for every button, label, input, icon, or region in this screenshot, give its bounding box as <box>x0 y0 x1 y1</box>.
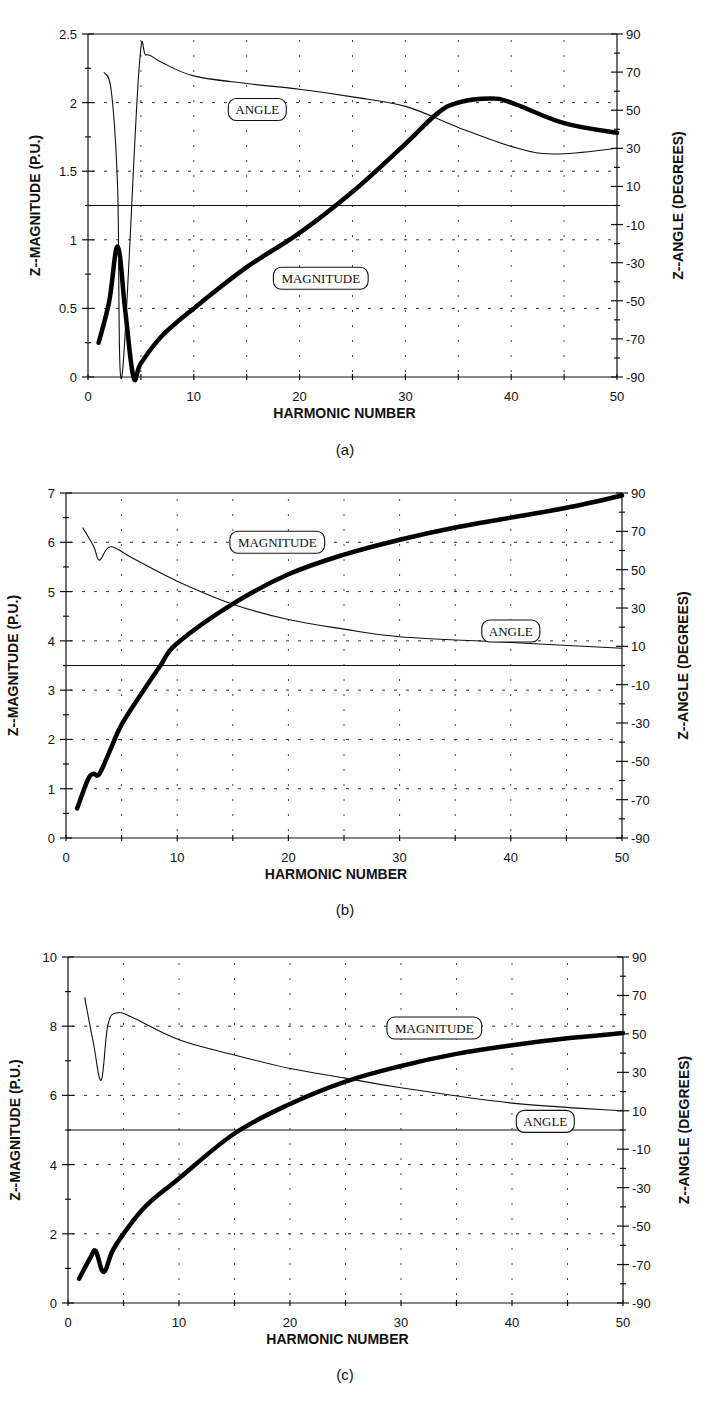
right-tick-label: -50 <box>632 1219 651 1234</box>
left-tick-label: 0.5 <box>59 301 77 316</box>
left-y-axis-title: Z--MAGNITUDE (P.U.) <box>7 1059 23 1200</box>
left-tick-label: 0 <box>48 831 55 846</box>
right-tick-label: 10 <box>632 1104 646 1119</box>
callout-label-angle: ANGLE <box>489 624 533 639</box>
left-tick-label: 0 <box>70 370 77 385</box>
right-tick-label: 30 <box>626 141 640 156</box>
right-tick-label: -30 <box>631 716 650 731</box>
x-tick-label: 10 <box>172 1315 186 1330</box>
left-tick-label: 2 <box>70 96 77 111</box>
x-axis-title: HARMONIC NUMBER <box>266 1331 408 1347</box>
right-tick-label: -90 <box>626 370 645 385</box>
right-tick-label: 90 <box>631 486 645 501</box>
x-tick-label: 0 <box>84 389 91 404</box>
left-tick-label: 3 <box>48 683 55 698</box>
callout-label-magnitude: MAGNITUDE <box>395 1021 474 1036</box>
right-tick-label: 30 <box>632 1065 646 1080</box>
left-tick-label: 1.5 <box>59 164 77 179</box>
left-tick-label: 10 <box>43 950 57 965</box>
callout-label-angle: ANGLE <box>235 102 279 117</box>
x-tick-label: 0 <box>62 850 69 865</box>
chart-panel-b: 01234567-90-70-50-30-1010305070900102030… <box>5 486 691 918</box>
right-tick-label: 90 <box>632 950 646 965</box>
right-y-axis-title: Z--ANGLE (DEGREES) <box>676 1056 692 1205</box>
right-tick-label: 50 <box>631 563 645 578</box>
left-tick-label: 2 <box>48 732 55 747</box>
left-tick-label: 7 <box>48 486 55 501</box>
right-tick-label: -30 <box>626 256 645 271</box>
figure: 00.511.522.5-90-70-50-30-101030507090010… <box>0 0 711 1409</box>
right-tick-label: 10 <box>626 179 640 194</box>
left-tick-label: 6 <box>50 1088 57 1103</box>
x-tick-label: 10 <box>170 850 184 865</box>
right-tick-label: 90 <box>626 27 640 42</box>
angle-curve <box>83 528 622 649</box>
left-y-axis-title: Z--MAGNITUDE (P.U.) <box>27 135 43 276</box>
left-tick-label: 2 <box>50 1227 57 1242</box>
angle-curve <box>104 42 617 379</box>
right-tick-label: 30 <box>631 601 645 616</box>
x-tick-label: 20 <box>283 1315 297 1330</box>
right-tick-label: -10 <box>626 218 645 233</box>
left-tick-label: 1 <box>70 233 77 248</box>
right-tick-label: -70 <box>626 332 645 347</box>
chart-panel-a: 00.511.522.5-90-70-50-30-101030507090010… <box>27 27 686 458</box>
figure-canvas: 00.511.522.5-90-70-50-30-101030507090010… <box>0 0 711 1409</box>
right-tick-label: 70 <box>632 988 646 1003</box>
chart-panel-c: 0246810-90-70-50-30-10103050709001020304… <box>7 950 692 1383</box>
x-tick-label: 40 <box>504 850 518 865</box>
x-tick-label: 50 <box>610 389 624 404</box>
callout-label-magnitude: MAGNITUDE <box>238 535 317 550</box>
x-tick-label: 30 <box>394 1315 408 1330</box>
left-tick-label: 8 <box>50 1019 57 1034</box>
x-tick-label: 50 <box>616 1315 630 1330</box>
right-tick-label: -30 <box>632 1181 651 1196</box>
x-tick-label: 10 <box>187 389 201 404</box>
left-tick-label: 0 <box>50 1296 57 1311</box>
callout-label-magnitude: MAGNITUDE <box>281 271 360 286</box>
right-tick-label: 70 <box>631 524 645 539</box>
right-tick-label: -70 <box>631 793 650 808</box>
x-tick-label: 30 <box>398 389 412 404</box>
x-tick-label: 40 <box>504 389 518 404</box>
left-y-axis-title: Z--MAGNITUDE (P.U.) <box>5 595 21 736</box>
right-y-axis-title: Z--ANGLE (DEGREES) <box>670 131 686 280</box>
right-tick-label: 10 <box>631 639 645 654</box>
left-tick-label: 4 <box>50 1158 57 1173</box>
right-tick-label: -10 <box>632 1142 651 1157</box>
angle-curve <box>85 997 623 1110</box>
callout-label-angle: ANGLE <box>523 1114 567 1129</box>
right-tick-label: -50 <box>631 754 650 769</box>
right-tick-label: 50 <box>632 1027 646 1042</box>
right-tick-label: -90 <box>631 831 650 846</box>
x-axis-title: HARMONIC NUMBER <box>265 866 407 882</box>
right-tick-label: -50 <box>626 294 645 309</box>
right-tick-label: 70 <box>626 65 640 80</box>
panel-caption: (b) <box>336 901 354 918</box>
x-tick-label: 40 <box>505 1315 519 1330</box>
x-tick-label: 30 <box>392 850 406 865</box>
panel-caption: (a) <box>336 441 354 458</box>
left-tick-label: 2.5 <box>59 27 77 42</box>
panel-caption: (c) <box>336 1366 354 1383</box>
x-tick-label: 20 <box>281 850 295 865</box>
x-tick-label: 0 <box>64 1315 71 1330</box>
x-tick-label: 20 <box>292 389 306 404</box>
right-tick-label: -70 <box>632 1258 651 1273</box>
right-tick-label: -90 <box>632 1296 651 1311</box>
magnitude-curve <box>79 1033 623 1279</box>
x-axis-title: HARMONIC NUMBER <box>273 405 415 421</box>
right-tick-label: -10 <box>631 678 650 693</box>
right-y-axis-title: Z--ANGLE (DEGREES) <box>675 591 691 740</box>
x-tick-label: 50 <box>615 850 629 865</box>
left-tick-label: 1 <box>48 782 55 797</box>
left-tick-label: 6 <box>48 535 55 550</box>
left-tick-label: 4 <box>48 634 55 649</box>
left-tick-label: 5 <box>48 585 55 600</box>
right-tick-label: 50 <box>626 103 640 118</box>
